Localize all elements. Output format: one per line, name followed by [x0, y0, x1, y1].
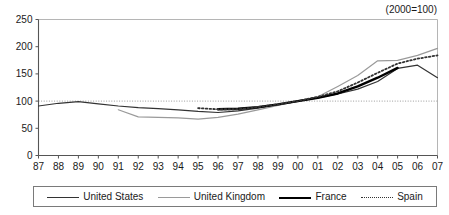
x-tick-label: 88 — [53, 161, 65, 172]
x-tick-label: 92 — [133, 161, 145, 172]
x-tick-label: 07 — [432, 161, 444, 172]
y-tick-label: 150 — [16, 68, 33, 79]
legend-line-france-icon — [279, 193, 311, 201]
chart-container: (2000=100) 05010015020025087888990919293… — [0, 0, 449, 215]
series-line-france — [218, 68, 398, 109]
legend-item-united-states[interactable]: United States — [47, 192, 143, 202]
legend-label-united-kingdom: United Kingdom — [194, 192, 265, 202]
y-tick-label: 0 — [27, 150, 33, 161]
legend-line-us-icon — [47, 193, 79, 201]
x-tick-label: 03 — [352, 161, 364, 172]
x-tick-label: 02 — [332, 161, 344, 172]
x-tick-label: 90 — [93, 161, 105, 172]
x-tick-label: 06 — [412, 161, 424, 172]
x-tick-label: 95 — [193, 161, 205, 172]
legend-item-united-kingdom[interactable]: United Kingdom — [158, 192, 265, 202]
y-tick-label: 200 — [16, 41, 33, 52]
x-tick-label: 04 — [372, 161, 384, 172]
y-tick-label: 250 — [16, 14, 33, 25]
line-chart-plot: 0501001502002508788899091929394959697989… — [0, 0, 449, 215]
legend-item-spain[interactable]: Spain — [361, 192, 423, 202]
x-tick-label: 05 — [392, 161, 404, 172]
legend-label-united-states: United States — [83, 192, 143, 202]
legend-item-france[interactable]: France — [279, 192, 346, 202]
x-tick-label: 98 — [252, 161, 264, 172]
x-tick-label: 94 — [173, 161, 185, 172]
x-tick-label: 01 — [312, 161, 324, 172]
x-tick-label: 99 — [272, 161, 284, 172]
chart-legend: United States United Kingdom France Spai… — [33, 186, 437, 207]
legend-line-uk-icon — [158, 193, 190, 201]
x-tick-label: 97 — [232, 161, 244, 172]
x-tick-label: 00 — [292, 161, 304, 172]
x-tick-label: 91 — [113, 161, 125, 172]
legend-label-france: France — [315, 192, 346, 202]
x-tick-label: 87 — [33, 161, 45, 172]
x-tick-label: 96 — [212, 161, 224, 172]
series-line-united-kingdom — [118, 48, 437, 119]
x-tick-label: 93 — [153, 161, 165, 172]
x-tick-label: 89 — [73, 161, 85, 172]
legend-label-spain: Spain — [397, 192, 423, 202]
y-tick-label: 100 — [16, 96, 33, 107]
y-tick-label: 50 — [21, 123, 33, 134]
legend-line-spain-icon — [361, 193, 393, 201]
